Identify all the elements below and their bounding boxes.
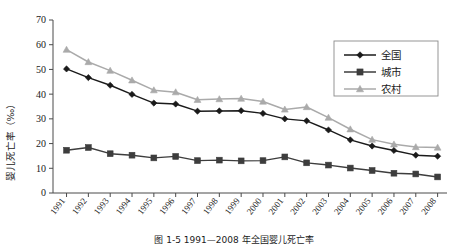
data-point-marker [282, 116, 288, 122]
x-tick-label: 2005 [354, 196, 373, 217]
legend-label: 城市 [381, 66, 401, 78]
x-tick-label: 2004 [332, 196, 351, 217]
data-point-marker [282, 154, 288, 160]
data-point-marker [173, 101, 179, 107]
figure-container: 婴儿死亡率（‰） 010203040506070 199119921993199… [0, 0, 468, 250]
y-tick-label: 0 [41, 187, 46, 198]
data-point-marker [369, 168, 375, 174]
data-point-marker [195, 158, 201, 164]
data-point-marker [85, 74, 91, 80]
y-tick-label: 70 [36, 14, 46, 25]
figure-caption: 图 1-5 1991—2008 年全国婴儿死亡率 [154, 234, 313, 245]
data-point-marker [63, 46, 70, 52]
series-城市 [64, 145, 441, 180]
data-point-marker [216, 108, 222, 114]
x-tick-label: 1994 [114, 196, 133, 217]
data-point-marker [260, 110, 266, 116]
x-tick-label: 1999 [223, 196, 242, 217]
data-point-marker [107, 151, 113, 157]
data-point-marker [304, 160, 310, 166]
data-point-marker [129, 152, 135, 158]
data-point-marker [347, 165, 353, 171]
x-tick-label: 2002 [288, 196, 307, 216]
data-point-marker [357, 69, 363, 75]
data-point-marker [238, 158, 244, 164]
data-point-marker [413, 171, 419, 177]
x-tick-label: 1995 [135, 196, 154, 217]
y-tick-label: 10 [36, 163, 46, 174]
data-point-marker [260, 158, 266, 164]
data-point-marker [151, 100, 157, 106]
y-tick-label: 40 [36, 89, 46, 100]
x-tick-label: 2008 [419, 196, 438, 217]
data-point-marker [107, 82, 113, 88]
x-tick-label: 1996 [157, 196, 176, 217]
data-point-marker [129, 91, 135, 97]
data-point-marker [63, 66, 69, 72]
y-axis-title: 婴儿死亡率（‰） [5, 99, 16, 182]
data-point-marker [391, 147, 397, 153]
x-tick-label: 2003 [310, 196, 329, 217]
y-tick-label: 50 [36, 64, 46, 75]
data-point-marker [151, 155, 157, 161]
data-point-marker [85, 145, 91, 151]
series-line [67, 148, 438, 177]
x-tick-label: 1993 [92, 196, 111, 217]
data-point-marker [326, 162, 332, 168]
x-tick-label: 1997 [179, 196, 198, 217]
x-tick-label: 2001 [266, 196, 285, 216]
infant-mortality-line-chart: 婴儿死亡率（‰） 010203040506070 199119921993199… [0, 0, 468, 250]
x-tick-label: 2006 [376, 196, 395, 217]
data-point-marker [325, 127, 331, 133]
x-axis-tick-labels: 1991199219931994199519961997199819992000… [48, 196, 438, 217]
y-tick-label: 20 [36, 138, 46, 149]
data-point-marker [391, 170, 397, 176]
data-point-marker [347, 137, 353, 143]
data-point-marker [304, 118, 310, 124]
data-point-marker [216, 157, 222, 163]
data-point-marker [413, 152, 419, 158]
x-tick-label: 1991 [48, 196, 67, 216]
x-tick-label: 1998 [201, 196, 220, 217]
data-point-marker [369, 143, 375, 149]
data-point-marker [347, 126, 354, 132]
data-point-marker [64, 147, 70, 153]
x-tick-label: 1992 [70, 196, 89, 216]
data-point-marker [435, 153, 441, 159]
x-tick-label: 2000 [245, 196, 264, 217]
data-point-marker [194, 108, 200, 114]
x-tick-label: 2007 [397, 196, 416, 217]
legend-label: 农村 [381, 83, 402, 95]
y-axis-ticks: 010203040506070 [36, 14, 53, 198]
legend-label: 全国 [381, 49, 401, 61]
data-point-marker [435, 174, 441, 180]
y-tick-label: 30 [36, 113, 46, 124]
legend: 全国城市农村 [334, 41, 438, 96]
data-point-marker [238, 108, 244, 114]
y-tick-label: 60 [36, 39, 46, 50]
x-axis-ticks [67, 193, 438, 197]
data-point-marker [85, 59, 92, 65]
data-point-marker [173, 154, 179, 160]
